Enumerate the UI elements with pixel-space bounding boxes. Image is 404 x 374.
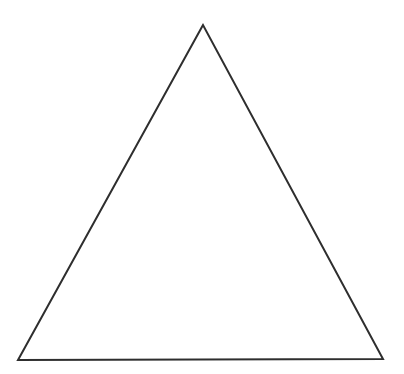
drawing-canvas — [0, 0, 404, 374]
triangle-figure — [0, 0, 404, 374]
triangle-outline — [18, 25, 383, 360]
